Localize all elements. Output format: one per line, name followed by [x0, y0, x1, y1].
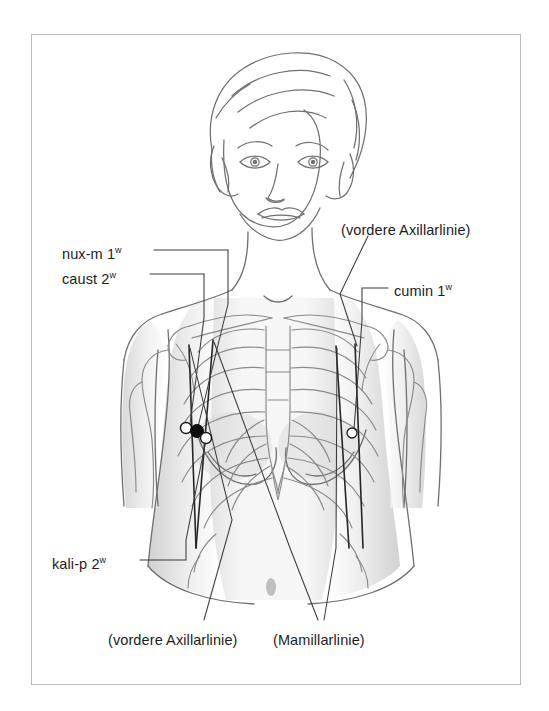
- head-figure: [210, 53, 366, 240]
- label-nux-m: nux-m 1w: [62, 246, 122, 261]
- label-vordere-axillarlinie-bottom: (vordere Axillarlinie): [108, 633, 238, 648]
- label-cumin: cumin 1w: [394, 283, 452, 298]
- point-white-lower[interactable]: [201, 433, 212, 444]
- torso-shading: [122, 298, 425, 600]
- label-kali-p: kali-p 2w: [52, 556, 106, 571]
- label-caust: caust 2w: [62, 271, 116, 286]
- point-white-left[interactable]: [181, 423, 192, 434]
- label-mamillarlinie: (Mamillarlinie): [273, 633, 365, 648]
- point-white-right[interactable]: [347, 428, 357, 438]
- label-vordere-axillarlinie-top: (vordere Axillarlinie): [341, 223, 471, 238]
- anatomy-illustration: [0, 0, 549, 711]
